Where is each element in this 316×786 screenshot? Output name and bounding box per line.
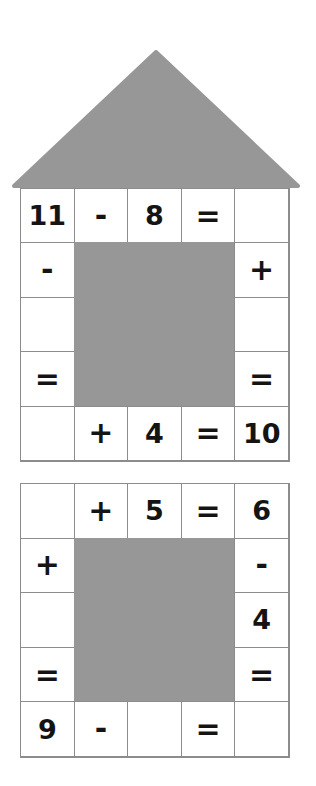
blocked-cell — [127, 297, 182, 352]
answer-cell[interactable] — [20, 406, 75, 461]
operator-cell: = — [181, 483, 236, 539]
number-cell: 4 — [234, 592, 289, 648]
answer-cell[interactable] — [234, 188, 289, 243]
operator-cell: - — [234, 538, 289, 594]
answer-cell[interactable] — [20, 297, 75, 352]
number-cell: 5 — [127, 483, 182, 539]
house-roof-triangle — [12, 50, 300, 188]
blocked-cell — [74, 351, 129, 406]
number-cell: 9 — [20, 701, 75, 757]
blocked-cell — [181, 351, 236, 406]
operator-cell: - — [74, 188, 129, 243]
operator-cell: - — [20, 242, 75, 297]
blocked-cell — [181, 647, 236, 703]
operator-cell: + — [74, 406, 129, 461]
house-roof — [12, 50, 300, 188]
answer-cell[interactable] — [20, 592, 75, 648]
worksheet-page: 11-8=-+==+4=10 +5=6+-4==9-= — [0, 0, 316, 786]
blocked-cell — [127, 592, 182, 648]
answer-cell[interactable] — [234, 297, 289, 352]
operator-cell: - — [74, 701, 129, 757]
answer-cell[interactable] — [127, 701, 182, 757]
answer-cell[interactable] — [20, 483, 75, 539]
puzzle-grid-1: 11-8=-+==+4=10 — [20, 188, 290, 462]
operator-cell: = — [20, 647, 75, 703]
blocked-cell — [74, 297, 129, 352]
blocked-cell — [127, 647, 182, 703]
blocked-cell — [127, 538, 182, 594]
puzzle-grid-2: +5=6+-4==9-= — [20, 483, 290, 758]
operator-cell: + — [74, 483, 129, 539]
number-cell: 10 — [234, 406, 289, 461]
blocked-cell — [74, 538, 129, 594]
operator-cell: + — [20, 538, 75, 594]
operator-cell: = — [234, 647, 289, 703]
operator-cell: = — [181, 406, 236, 461]
blocked-cell — [181, 297, 236, 352]
number-cell: 11 — [20, 188, 75, 243]
operator-cell: = — [20, 351, 75, 406]
operator-cell: = — [234, 351, 289, 406]
blocked-cell — [181, 242, 236, 297]
blocked-cell — [181, 538, 236, 594]
operator-cell: + — [234, 242, 289, 297]
blocked-cell — [74, 647, 129, 703]
operator-cell: = — [181, 188, 236, 243]
blocked-cell — [127, 351, 182, 406]
number-cell: 6 — [234, 483, 289, 539]
operator-cell: = — [181, 701, 236, 757]
number-cell: 8 — [127, 188, 182, 243]
blocked-cell — [127, 242, 182, 297]
blocked-cell — [74, 592, 129, 648]
answer-cell[interactable] — [234, 701, 289, 757]
blocked-cell — [181, 592, 236, 648]
blocked-cell — [74, 242, 129, 297]
number-cell: 4 — [127, 406, 182, 461]
